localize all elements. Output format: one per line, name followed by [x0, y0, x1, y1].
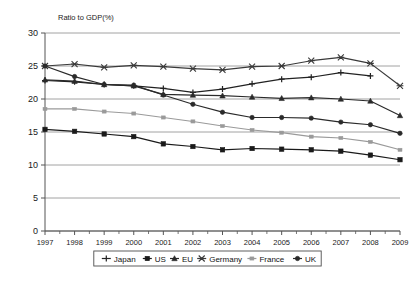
data-point-marker: [279, 115, 283, 119]
data-point-marker: [368, 153, 372, 157]
x-tick-label: 2007: [332, 238, 349, 247]
legend-label: UK: [305, 255, 317, 264]
legend-label: France: [259, 255, 284, 264]
data-point-marker: [250, 115, 254, 119]
data-point-marker: [132, 134, 136, 138]
data-point-marker: [191, 102, 195, 106]
chart-background: [0, 0, 415, 281]
data-point-marker: [368, 123, 372, 127]
x-tick-label: 2000: [125, 238, 142, 247]
x-tick-label: 2009: [392, 238, 409, 247]
chart-legend[interactable]: JapanUSEUGermanyFranceUK: [94, 251, 321, 266]
data-point-marker: [250, 146, 254, 150]
y-tick-label: 0: [33, 226, 38, 236]
data-point-marker: [72, 74, 76, 78]
data-point-marker: [132, 112, 136, 115]
x-tick-label: 2006: [303, 238, 320, 247]
legend-label: US: [155, 255, 166, 264]
data-point-marker: [339, 136, 343, 139]
data-point-marker: [102, 110, 106, 113]
data-point-marker: [43, 64, 47, 68]
chart-container: 051015202530 199719981999200020012002200…: [0, 0, 415, 281]
data-point-marker: [398, 131, 402, 135]
data-point-marker: [250, 257, 254, 260]
y-axis-title: Ratio to GDP(%): [58, 13, 114, 22]
data-point-marker: [250, 128, 254, 131]
x-tick-label: 1999: [96, 238, 113, 247]
x-tick-label: 2001: [155, 238, 172, 247]
data-point-marker: [309, 135, 313, 138]
y-tick-label: 20: [28, 94, 38, 104]
y-tick-label: 30: [28, 28, 38, 38]
legend-label: EU: [182, 255, 193, 264]
data-point-marker: [102, 82, 106, 86]
legend-label: Germany: [209, 255, 242, 264]
y-tick-label: 15: [28, 127, 38, 137]
data-point-marker: [280, 131, 284, 134]
x-tick-label: 2004: [244, 238, 261, 247]
y-tick-label: 10: [28, 160, 38, 170]
y-tick-label: 25: [28, 61, 38, 71]
data-point-marker: [279, 147, 283, 151]
data-point-marker: [73, 107, 77, 110]
x-tick-label: 2008: [362, 238, 379, 247]
data-point-marker: [220, 148, 224, 152]
data-point-marker: [43, 107, 47, 110]
data-point-marker: [161, 93, 165, 97]
line-chart: 051015202530 199719981999200020012002200…: [0, 0, 415, 281]
data-point-marker: [145, 256, 149, 260]
data-point-marker: [221, 124, 225, 127]
y-tick-label: 5: [33, 193, 38, 203]
x-tick-label: 2003: [214, 238, 231, 247]
data-point-marker: [161, 142, 165, 146]
data-point-marker: [398, 148, 402, 151]
data-point-marker: [220, 110, 224, 114]
x-tick-label: 1998: [66, 238, 83, 247]
data-point-marker: [398, 158, 402, 162]
data-point-marker: [309, 116, 313, 120]
x-tick-label: 2005: [273, 238, 290, 247]
data-point-marker: [339, 149, 343, 153]
x-tick-label: 2002: [185, 238, 202, 247]
data-point-marker: [339, 120, 343, 124]
data-point-marker: [161, 116, 165, 119]
data-point-marker: [132, 83, 136, 87]
data-point-marker: [102, 132, 106, 136]
data-point-marker: [309, 148, 313, 152]
data-point-marker: [191, 120, 195, 123]
data-point-marker: [43, 127, 47, 131]
data-point-marker: [368, 140, 372, 143]
data-point-marker: [191, 144, 195, 148]
legend-label: Japan: [114, 255, 136, 264]
x-tick-label: 1997: [37, 238, 54, 247]
data-point-marker: [295, 256, 299, 260]
data-point-marker: [72, 129, 76, 133]
